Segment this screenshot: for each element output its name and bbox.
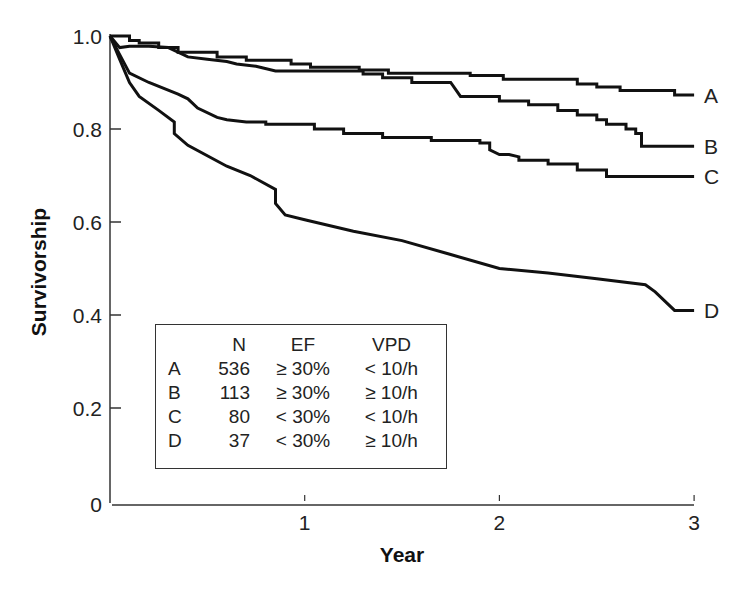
y-axis-title: Survivorship bbox=[27, 208, 50, 336]
curve-label-d: D bbox=[704, 299, 719, 322]
y-tick-label: 0.8 bbox=[73, 118, 102, 141]
curve-labels: ABCD bbox=[704, 84, 719, 322]
legend-key: D bbox=[168, 429, 198, 453]
legend-ef: ≥ 30% bbox=[262, 381, 344, 405]
x-tick-label: 2 bbox=[494, 511, 506, 534]
curve-label-a: A bbox=[704, 84, 718, 107]
y-tick-label: 1.0 bbox=[73, 25, 102, 48]
x-tick-label: 3 bbox=[688, 511, 700, 534]
y-tick-label: 0.2 bbox=[73, 397, 102, 420]
survival-curves bbox=[110, 36, 694, 310]
legend-header-row: N EF VPD bbox=[168, 333, 439, 357]
legend-ef: < 30% bbox=[262, 405, 344, 429]
x-axis-title: Year bbox=[380, 543, 424, 566]
x-axis-ticks: 123 bbox=[299, 495, 700, 534]
legend-n: 113 bbox=[198, 381, 262, 405]
survival-chart: 00.20.40.60.81.0 123 ABCD Year Survivors… bbox=[0, 0, 737, 593]
legend-vpd: < 10/h bbox=[344, 405, 439, 429]
legend-n: 536 bbox=[198, 357, 262, 381]
legend-vpd: ≥ 10/h bbox=[344, 381, 439, 405]
legend-key: A bbox=[168, 357, 198, 381]
legend-header-key bbox=[168, 333, 198, 357]
curve-a bbox=[110, 36, 694, 95]
legend-row-d: D 37 < 30% ≥ 10/h bbox=[168, 429, 439, 453]
legend-header-n: N bbox=[198, 333, 262, 357]
legend-vpd: ≥ 10/h bbox=[344, 429, 439, 453]
legend-n: 37 bbox=[198, 429, 262, 453]
y-axis-ticks: 00.20.40.60.81.0 bbox=[73, 25, 121, 516]
legend-row-b: B 113 ≥ 30% ≥ 10/h bbox=[168, 381, 439, 405]
legend-table: N EF VPD A 536 ≥ 30% < 10/h B 113 ≥ 30% … bbox=[168, 333, 439, 453]
curve-label-c: C bbox=[704, 165, 719, 188]
legend-key: C bbox=[168, 405, 198, 429]
legend-row-c: C 80 < 30% < 10/h bbox=[168, 405, 439, 429]
legend-ef: < 30% bbox=[262, 429, 344, 453]
y-tick-label: 0 bbox=[90, 493, 102, 516]
legend-row-a: A 536 ≥ 30% < 10/h bbox=[168, 357, 439, 381]
x-tick-label: 1 bbox=[299, 511, 311, 534]
legend-key: B bbox=[168, 381, 198, 405]
legend-header-ef: EF bbox=[262, 333, 344, 357]
y-tick-label: 0.6 bbox=[73, 211, 102, 234]
legend-header-vpd: VPD bbox=[344, 333, 439, 357]
legend-ef: ≥ 30% bbox=[262, 357, 344, 381]
legend-vpd: < 10/h bbox=[344, 357, 439, 381]
y-tick-label: 0.4 bbox=[73, 304, 103, 327]
curve-label-b: B bbox=[704, 135, 718, 158]
legend-n: 80 bbox=[198, 405, 262, 429]
